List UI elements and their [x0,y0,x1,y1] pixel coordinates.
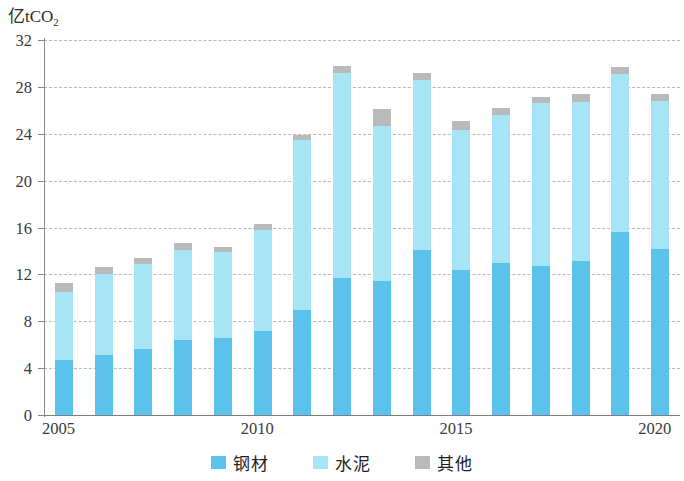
bar-2006 [95,40,113,415]
y-axis-tick-label: 12 [2,265,32,285]
bar-2018 [572,40,590,415]
bar-segment-other [174,243,192,250]
bar-segment-cement [492,115,510,263]
x-axis-tick-label: 2020 [638,419,671,439]
bar-2020 [651,40,669,415]
y-axis-tick-label: 8 [2,312,32,332]
y-axis-unit-label: 亿tCO2 [8,2,59,28]
bar-segment-steel [373,281,391,415]
bar-2005 [55,40,73,415]
bar-segment-other [333,66,351,73]
bar-segment-cement [532,103,550,266]
bar-segment-steel [95,355,113,415]
x-axis-line [44,415,680,416]
legend-label: 水泥 [335,450,371,475]
bar-segment-steel [55,360,73,415]
legend-swatch-icon [415,456,430,469]
legend-swatch-icon [313,456,328,469]
bar-segment-other [492,108,510,115]
bar-2013 [373,40,391,415]
y-axis-tick-label: 0 [2,406,32,426]
bar-segment-steel [492,263,510,415]
bar-2017 [532,40,550,415]
y-axis-tick-label: 20 [2,172,32,192]
bar-2010 [254,40,272,415]
bar-segment-cement [134,264,152,350]
bar-segment-steel [611,232,629,415]
bar-segment-steel [651,249,669,415]
y-axis-unit-subscript: 2 [53,16,59,28]
y-axis-unit-text: 亿tCO [8,7,53,26]
legend-item-steel[interactable]: 钢材 [211,450,269,475]
bar-segment-other [452,121,470,130]
bar-segment-other [214,247,232,252]
bar-segment-cement [254,230,272,331]
x-axis-tick-label: 2010 [241,419,274,439]
bar-segment-cement [572,102,590,261]
bar-2014 [413,40,431,415]
bar-2007 [134,40,152,415]
legend-swatch-icon [211,456,226,469]
bar-segment-other [95,267,113,274]
y-axis-tick-label: 28 [2,78,32,98]
x-axis-tick-label: 2015 [439,419,472,439]
chart-legend: 钢材水泥其他 [0,450,684,475]
bar-segment-other [373,109,391,125]
bar-segment-steel [452,270,470,415]
legend-label: 钢材 [233,450,269,475]
bar-2016 [492,40,510,415]
y-tick-mark [38,415,45,416]
legend-item-cement[interactable]: 水泥 [313,450,371,475]
bar-2011 [293,40,311,415]
x-axis-tick-label: 2005 [42,419,75,439]
bar-segment-cement [413,80,431,250]
y-axis-tick-label: 4 [2,359,32,379]
bar-segment-steel [333,278,351,415]
bar-2008 [174,40,192,415]
plot-area: 048121620242832 [44,40,680,415]
bar-segment-cement [452,130,470,269]
bar-segment-other [413,73,431,80]
bar-segment-cement [55,292,73,360]
bar-segment-other [55,283,73,292]
bar-segment-other [254,224,272,230]
bar-segment-cement [651,101,669,249]
bar-segment-other [532,97,550,103]
bar-segment-steel [254,331,272,415]
bar-segment-cement [174,250,192,340]
bar-segment-other [572,94,590,102]
bar-segment-cement [373,126,391,282]
bar-group [44,40,680,415]
legend-item-other[interactable]: 其他 [415,450,473,475]
bar-segment-steel [293,310,311,415]
bar-segment-steel [532,266,550,415]
bar-segment-other [293,135,311,140]
bar-segment-cement [214,252,232,338]
bar-2015 [452,40,470,415]
bar-segment-steel [174,340,192,415]
bar-segment-steel [214,338,232,415]
bar-segment-cement [95,274,113,355]
bar-segment-cement [293,140,311,310]
bar-2009 [214,40,232,415]
bar-2019 [611,40,629,415]
bar-2012 [333,40,351,415]
bar-segment-steel [413,250,431,415]
bar-segment-cement [333,73,351,278]
y-axis-tick-label: 24 [2,125,32,145]
bar-segment-steel [572,261,590,415]
bar-segment-steel [134,349,152,415]
bar-segment-cement [611,74,629,232]
y-axis-tick-label: 16 [2,219,32,239]
stacked-bar-chart: 亿tCO2 048121620242832 2005201020152020 钢… [0,0,684,481]
legend-label: 其他 [437,450,473,475]
y-axis-tick-label: 32 [2,31,32,51]
bar-segment-other [651,94,669,101]
bar-segment-other [611,67,629,74]
bar-segment-other [134,258,152,264]
